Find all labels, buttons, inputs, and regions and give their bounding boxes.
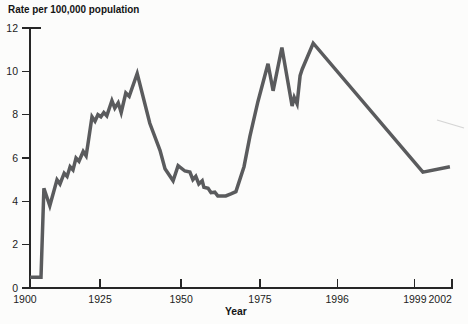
y-tick-label-10: 10 [6, 65, 18, 77]
y-tick-label-8: 8 [12, 108, 18, 120]
y-tick-label-12: 12 [6, 22, 18, 34]
x-tick-label-2002: 2002 [429, 293, 453, 305]
x-tick-label-1999: 1999 [403, 293, 427, 305]
rate-line [30, 43, 450, 277]
x-tick-label-1925: 1925 [88, 293, 112, 305]
y-tick-label-4: 4 [12, 195, 18, 207]
homicide-rate-chart-figure: 0246810121900192519501975199619992002 Ra… [0, 0, 468, 324]
axes [30, 28, 453, 288]
y-tick-label-6: 6 [12, 152, 18, 164]
y-axis-title: Rate per 100,000 population [8, 3, 139, 15]
y-tick-label-2: 2 [12, 238, 18, 250]
x-axis-title: Year [225, 305, 247, 317]
scan-artifact-mark [437, 120, 464, 128]
x-tick-label-1996: 1996 [326, 293, 350, 305]
x-tick-label-1950: 1950 [169, 293, 193, 305]
chart-svg: 0246810121900192519501975199619992002 [0, 0, 468, 324]
y-tick-label-0: 0 [12, 282, 18, 294]
x-tick-label-1975: 1975 [248, 293, 272, 305]
x-tick-label-1900: 1900 [13, 293, 37, 305]
